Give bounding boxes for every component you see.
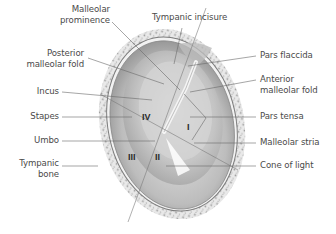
label-malleolar-stria: Malleolar stria: [260, 137, 319, 148]
quadrant-I: I: [187, 122, 190, 132]
label-tympanic-incisure: Tympanic incisure: [152, 12, 227, 23]
label-cone-of-light: Cone of light: [260, 160, 314, 171]
label-posterior-malleolar-fold: Posterior malleolar fold: [14, 48, 84, 69]
label-stapes: Stapes: [14, 111, 59, 122]
label-tympanic-bone: Tympanic bone: [4, 158, 59, 179]
label-pars-tensa: Pars tensa: [260, 111, 304, 122]
quadrant-IV: IV: [142, 112, 151, 122]
quadrant-II: II: [155, 152, 160, 162]
label-incus: Incus: [14, 86, 59, 97]
tympanic-membrane-figure: IV I III II Malleolar prominence Posteri…: [0, 0, 336, 234]
label-pars-flaccida: Pars flaccida: [260, 50, 313, 61]
label-malleolar-prominence: Malleolar prominence: [44, 4, 110, 25]
label-umbo: Umbo: [14, 135, 59, 146]
quadrant-III: III: [128, 152, 136, 162]
label-anterior-malleolar-fold: Anterior malleolar fold: [260, 74, 318, 95]
